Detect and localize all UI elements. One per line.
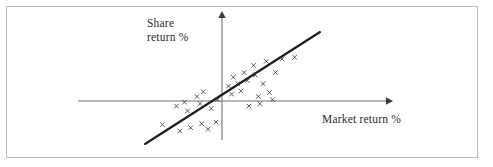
data-point — [293, 55, 297, 59]
data-point — [227, 84, 231, 88]
data-point — [201, 90, 205, 94]
data-point — [252, 63, 256, 67]
data-point — [206, 127, 210, 131]
data-point — [230, 92, 234, 96]
data-point — [231, 75, 235, 79]
x-axis-arrowhead — [386, 97, 393, 104]
data-point — [258, 102, 262, 106]
data-point — [242, 71, 246, 75]
data-point — [267, 91, 271, 95]
data-point — [214, 120, 218, 124]
data-point — [261, 82, 265, 86]
data-point — [178, 129, 182, 133]
data-point — [274, 71, 278, 75]
data-point — [247, 104, 251, 108]
data-point — [198, 102, 202, 106]
data-point — [239, 89, 243, 93]
data-point — [186, 109, 190, 113]
data-point — [256, 95, 260, 99]
y-axis-label: Share return % — [147, 17, 189, 44]
data-point — [189, 126, 193, 130]
data-point — [195, 95, 199, 99]
y-axis-arrowhead — [218, 11, 225, 18]
figure-root: Share return % Market return % — [0, 0, 493, 167]
data-point — [175, 104, 179, 108]
scatter-plot-canvas — [0, 0, 493, 167]
data-point — [209, 107, 213, 111]
regression-trendline — [145, 32, 320, 144]
data-point — [264, 59, 268, 63]
data-point — [160, 123, 164, 127]
data-point — [200, 122, 204, 126]
x-axis-label: Market return % — [322, 113, 401, 127]
